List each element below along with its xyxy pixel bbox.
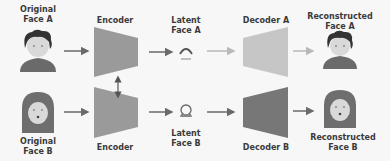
person-curly-hair-icon <box>20 30 56 72</box>
encoder-top-shape <box>94 27 138 77</box>
latent-arc-icon <box>180 49 192 59</box>
reconstructed-face-b-icon <box>324 90 356 128</box>
encoder-bottom-shape <box>94 87 138 138</box>
autoencoder-diagram <box>0 0 390 161</box>
decoder-a-shape <box>243 27 288 77</box>
latent-circle-icon <box>180 105 192 117</box>
reconstructed-face-a-icon <box>323 31 357 69</box>
decoder-b-shape <box>243 87 288 138</box>
person-hijab-icon <box>22 92 54 133</box>
